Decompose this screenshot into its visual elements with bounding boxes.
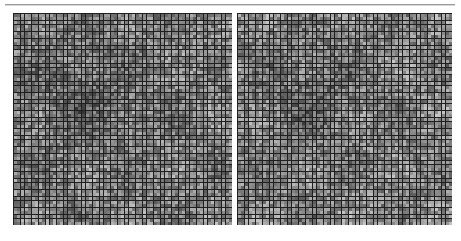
heatmap-canvas-left[interactable] xyxy=(13,13,232,225)
top-horizontal-rule-shadow xyxy=(5,5,455,6)
heatmap-canvas-right[interactable] xyxy=(237,13,452,225)
heatmap-panel-left[interactable] xyxy=(13,13,232,225)
figure-root xyxy=(0,0,461,241)
heatmap-panel-right[interactable] xyxy=(237,13,452,225)
